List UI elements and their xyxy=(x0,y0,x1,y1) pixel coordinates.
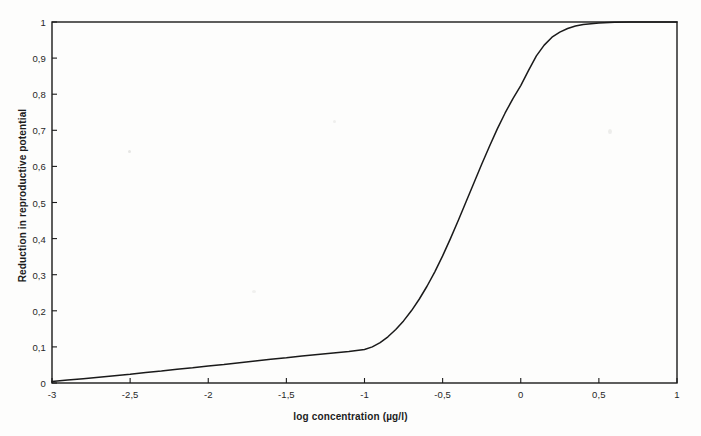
y-tick-label: 0,2 xyxy=(6,305,46,316)
x-tick-label: 0 xyxy=(518,389,523,400)
plot-frame xyxy=(52,22,677,383)
y-tick-label: 1 xyxy=(6,17,46,28)
x-tick-label: -0,5 xyxy=(434,389,451,400)
x-tick-label: 1 xyxy=(674,389,679,400)
x-tick-label: -1 xyxy=(360,389,369,400)
plot-canvas xyxy=(0,0,701,436)
x-tick-label: 0,5 xyxy=(592,389,606,400)
x-tick-label: -3 xyxy=(48,389,57,400)
y-tick-label: 0,1 xyxy=(6,341,46,352)
x-tick-label: -1,5 xyxy=(278,389,295,400)
data-series-line xyxy=(52,22,677,382)
y-tick-label: 0 xyxy=(6,378,46,389)
y-axis-ticks xyxy=(52,22,57,383)
y-axis-title: Reduction in reproductive potential xyxy=(17,96,28,296)
axes-border xyxy=(52,22,677,383)
x-axis-ticks xyxy=(52,378,677,383)
y-tick-label: 0,9 xyxy=(6,53,46,64)
x-axis-title: log concentration (µg/l) xyxy=(0,411,701,422)
x-tick-label: -2 xyxy=(204,389,213,400)
x-tick-label: -2,5 xyxy=(122,389,139,400)
chart-figure: -3-2,5-2-1,5-1-0,500,51 00,10,20,30,40,5… xyxy=(0,0,701,436)
